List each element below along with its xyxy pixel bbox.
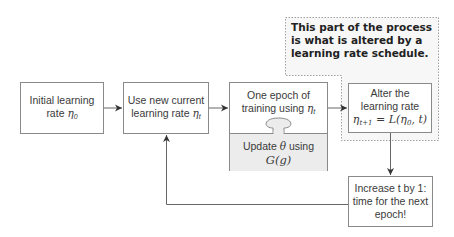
eta-subscript: t <box>199 113 201 120</box>
increase-line2: time for the next <box>353 195 428 208</box>
schedule-note: This part of the process is what is alte… <box>291 21 436 60</box>
epoch-training-box: One epoch of training using ηt Update θ … <box>229 82 328 171</box>
initial-line2: rate <box>46 107 67 119</box>
use-line2: learning rate <box>131 107 192 119</box>
alter-line1: Alter the <box>353 87 427 100</box>
formula-end: , t) <box>411 113 427 126</box>
initial-line1: Initial learning <box>30 94 95 107</box>
alter-line2: learning rate <box>353 100 427 113</box>
use-line1: Use new current <box>128 94 204 107</box>
increase-line3: epoch! <box>353 208 428 221</box>
increase-line1: Increase t by 1: <box>353 182 428 195</box>
formula-sub: t+1 <box>359 119 372 127</box>
eta-subscript: 0 <box>74 113 78 120</box>
alter-learning-rate-box: Alter the learning rate ηt+1 = L(η0, t) <box>348 83 432 133</box>
use-current-rate-box: Use new current learning rate ηt <box>123 82 209 134</box>
increase-t-box: Increase t by 1: time for the next epoch… <box>348 176 433 227</box>
formula-rest: = L(η <box>373 113 407 126</box>
initial-learning-rate-box: Initial learning rate η0 <box>20 82 104 134</box>
keyhole-connector-icon <box>229 82 328 171</box>
update-formula: ηt+1 = L(η0, t) <box>353 113 427 130</box>
